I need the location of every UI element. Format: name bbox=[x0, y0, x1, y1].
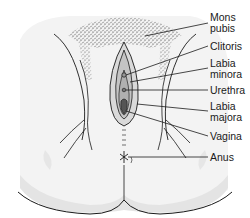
label-line: Vagina bbox=[210, 131, 242, 142]
label-line: pubis bbox=[210, 23, 236, 34]
label-labia-majora: Labia majora bbox=[210, 101, 242, 123]
label-line: Anus bbox=[210, 152, 234, 163]
label-vagina: Vagina bbox=[210, 131, 242, 142]
label-line: minora bbox=[210, 69, 242, 80]
label-line: Urethra bbox=[210, 85, 245, 96]
clitoris-shape bbox=[122, 73, 126, 77]
label-line: majora bbox=[210, 112, 242, 123]
label-mons-pubis: Mons pubis bbox=[210, 12, 236, 34]
urethra-shape bbox=[122, 88, 126, 92]
label-urethra: Urethra bbox=[210, 85, 245, 96]
vulva-diagram: Mons pubis Clitoris Labia minora Urethra… bbox=[0, 0, 250, 218]
label-line: Clitoris bbox=[210, 41, 242, 52]
label-clitoris: Clitoris bbox=[210, 41, 242, 52]
label-anus: Anus bbox=[210, 152, 234, 163]
label-labia-minora: Labia minora bbox=[210, 58, 242, 80]
